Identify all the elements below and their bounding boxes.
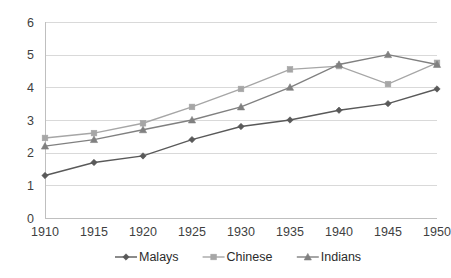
x-tick-label: 1950: [423, 225, 451, 239]
y-tick-label: 1: [27, 179, 34, 193]
legend-label: Indians: [321, 250, 361, 264]
y-tick-label: 5: [27, 48, 34, 62]
x-tick-label: 1925: [178, 225, 206, 239]
x-tick-label: 1930: [227, 225, 255, 239]
y-axis-tick-labels: 0123456: [27, 16, 34, 226]
x-tick-label: 1940: [325, 225, 353, 239]
marker-diamond: [140, 153, 146, 159]
marker-square: [211, 254, 217, 260]
legend-label: Chinese: [227, 250, 273, 264]
marker-diamond: [238, 123, 244, 129]
y-tick-label: 2: [27, 146, 34, 160]
y-tick-label: 4: [27, 81, 34, 95]
marker-triangle: [286, 84, 293, 91]
marker-square: [238, 86, 244, 92]
chart-legend: MalaysChineseIndians: [115, 250, 361, 264]
chart-canvas: 0123456 19101915192019251930193519401945…: [0, 0, 451, 278]
marker-diamond: [434, 86, 440, 92]
legend-item-indians[interactable]: Indians: [297, 250, 361, 264]
marker-square: [42, 135, 48, 141]
marker-diamond: [189, 136, 195, 142]
marker-square: [385, 81, 391, 87]
series-line: [45, 89, 437, 176]
y-tick-label: 0: [27, 212, 34, 226]
x-tick-label: 1910: [31, 225, 59, 239]
legend-label: Malays: [139, 250, 179, 264]
marker-square: [140, 120, 146, 126]
series-line: [45, 55, 437, 146]
legend-item-chinese[interactable]: Chinese: [203, 250, 273, 264]
marker-diamond: [336, 107, 342, 113]
marker-diamond: [385, 100, 391, 106]
y-tick-label: 6: [27, 16, 34, 30]
x-tick-label: 1945: [374, 225, 402, 239]
marker-diamond: [91, 159, 97, 165]
marker-square: [91, 130, 97, 136]
x-tick-label: 1920: [129, 225, 157, 239]
marker-square: [189, 104, 195, 110]
marker-triangle: [384, 51, 391, 58]
marker-square: [287, 67, 293, 73]
marker-diamond: [123, 254, 129, 260]
x-tick-label: 1915: [80, 225, 108, 239]
marker-diamond: [287, 117, 293, 123]
legend-item-malays[interactable]: Malays: [115, 250, 179, 264]
x-tick-label: 1935: [276, 225, 304, 239]
series-group: [41, 51, 440, 179]
line-chart: 0123456 19101915192019251930193519401945…: [0, 0, 451, 278]
gridlines: [45, 22, 437, 219]
series-indians: [41, 51, 440, 149]
x-axis-tick-labels: 191019151920192519301935194019451950: [31, 225, 451, 239]
marker-diamond: [42, 172, 48, 178]
y-tick-label: 3: [27, 114, 34, 128]
